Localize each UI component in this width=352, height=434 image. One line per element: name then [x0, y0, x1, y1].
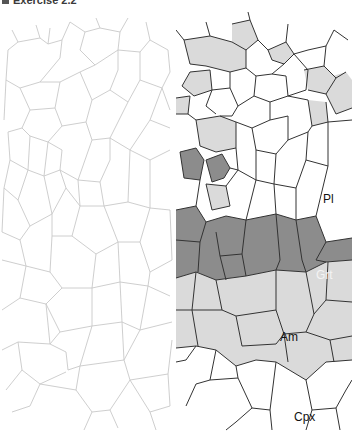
label-clinopyroxene: Cpx	[294, 410, 315, 424]
grain-outline-drawing	[0, 10, 176, 434]
exercise-title: Exercise 2.2	[2, 0, 77, 6]
label-garnet: Grt	[316, 268, 333, 282]
title-text: Exercise 2.2	[13, 0, 77, 6]
title-bullet-icon	[2, 0, 9, 4]
grain-sketch-panel	[0, 10, 176, 434]
mineral-map-panel: Pl Grt Am Cpx	[176, 10, 352, 434]
mineral-map-drawing	[176, 10, 352, 434]
label-plagioclase: Pl	[323, 192, 334, 206]
label-amphibole: Am	[280, 330, 298, 344]
